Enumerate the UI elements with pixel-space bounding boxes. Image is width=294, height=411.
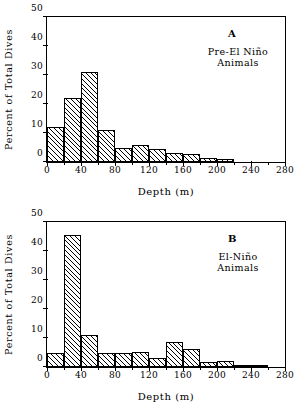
x-axis-tick-label: 0 <box>44 166 50 175</box>
x-axis-tick-label: 200 <box>208 371 226 380</box>
histogram-bar <box>81 335 98 367</box>
histogram-bar <box>98 353 115 368</box>
histogram-bar <box>132 145 149 162</box>
y-axis-tick <box>43 337 48 338</box>
x-axis-tick-label: 40 <box>75 166 87 175</box>
y-axis-tick-label: 30 <box>31 267 43 276</box>
histogram-bar <box>183 154 200 162</box>
y-axis-tick-label: 10 <box>31 120 43 129</box>
x-axis-minor-tick <box>166 162 167 165</box>
x-axis-tick-label: 240 <box>242 371 260 380</box>
y-axis-tick <box>43 308 48 309</box>
y-axis-tick <box>43 279 48 280</box>
x-axis-minor-tick <box>132 367 133 370</box>
x-axis-tick-label: 160 <box>174 166 192 175</box>
y-axis-tick-label: 20 <box>31 296 43 305</box>
histogram-bar <box>115 353 132 368</box>
panel-caption-a-line1: Pre-El Niño <box>190 46 286 57</box>
x-axis-minor-tick <box>64 162 65 165</box>
histogram-bar <box>217 361 234 367</box>
histogram-bar <box>166 153 183 162</box>
histogram-bar <box>47 353 64 368</box>
y-axis-tick-label: 40 <box>31 238 43 247</box>
y-axis-tick-label: 50 <box>31 209 43 218</box>
y-axis-tick <box>43 221 48 222</box>
histogram-bar <box>251 365 268 367</box>
y-axis-tick <box>43 45 48 46</box>
y-axis-tick-label: 0 <box>37 149 43 158</box>
x-axis-tick-label: 40 <box>75 371 87 380</box>
x-axis-minor-tick <box>166 367 167 370</box>
x-axis-tick-label: 280 <box>276 371 294 380</box>
histogram-bar <box>64 235 81 367</box>
x-axis-title: Depth (m) <box>46 391 286 402</box>
panel-caption-a-line2: Animals <box>190 57 286 68</box>
y-axis-title-text: Percent of Total Dives <box>4 234 15 355</box>
histogram-bar <box>166 342 183 367</box>
y-axis-tick-label: 30 <box>31 62 43 71</box>
histogram-bar <box>64 98 81 162</box>
panel-letter-a: A <box>228 28 236 39</box>
y-axis-tick-label: 10 <box>31 325 43 334</box>
x-axis-tick-label: 120 <box>140 166 158 175</box>
plot-area-a: 0102030405004080120160200240280 <box>46 16 286 163</box>
histogram-bar <box>115 148 132 163</box>
histogram-bar <box>183 349 200 367</box>
histogram-bar <box>47 127 64 162</box>
y-axis-title: Percent of Total Dives <box>2 16 16 163</box>
x-axis-minor-tick <box>234 162 235 165</box>
x-axis-minor-tick <box>200 367 201 370</box>
x-axis-minor-tick <box>98 162 99 165</box>
panel-caption-b-line2: Animals <box>190 262 286 273</box>
histogram-bar <box>81 72 98 162</box>
histogram-bar <box>234 365 251 367</box>
x-axis-tick-label: 0 <box>44 371 50 380</box>
chart-panel-a: Percent of Total Dives 01020304050040801… <box>0 0 294 205</box>
y-axis-tick <box>43 250 48 251</box>
x-axis-tick-label: 120 <box>140 371 158 380</box>
y-axis-tick <box>43 103 48 104</box>
panel-letter-b: B <box>228 233 237 244</box>
x-axis-minor-tick <box>268 367 269 370</box>
chart-panel-b: Percent of Total Dives 01020304050040801… <box>0 205 294 410</box>
x-axis-minor-tick <box>234 367 235 370</box>
y-axis-tick-label: 20 <box>31 91 43 100</box>
panel-caption-b-line1: El-Niño <box>190 251 286 262</box>
x-axis-minor-tick <box>98 367 99 370</box>
y-axis-tick <box>43 132 48 133</box>
y-axis-tick <box>43 74 48 75</box>
x-axis-title: Depth (m) <box>46 186 286 197</box>
y-axis-tick-label: 40 <box>31 33 43 42</box>
x-axis-tick-label: 280 <box>276 166 294 175</box>
y-axis-tick-label: 50 <box>31 4 43 13</box>
x-axis-minor-tick <box>268 162 269 165</box>
histogram-bar <box>149 149 166 162</box>
x-axis-tick-label: 240 <box>242 166 260 175</box>
histogram-bar <box>98 130 115 162</box>
x-axis-tick-label: 160 <box>174 371 192 380</box>
histogram-bar <box>132 352 149 367</box>
y-axis-title-text: Percent of Total Dives <box>4 29 15 150</box>
x-axis-tick-label: 80 <box>109 166 121 175</box>
histogram-bar <box>200 158 217 162</box>
histogram-bar <box>217 159 234 162</box>
y-axis-tick-label: 0 <box>37 354 43 363</box>
plot-area-b: 0102030405004080120160200240280 <box>46 221 286 368</box>
histogram-bar <box>149 358 166 367</box>
bars-container-a <box>47 17 285 162</box>
histogram-bar <box>200 362 217 367</box>
bars-container-b <box>47 222 285 367</box>
x-axis-minor-tick <box>64 367 65 370</box>
x-axis-minor-tick <box>200 162 201 165</box>
x-axis-minor-tick <box>132 162 133 165</box>
y-axis-tick <box>43 16 48 17</box>
x-axis-tick-label: 200 <box>208 166 226 175</box>
x-axis-tick-label: 80 <box>109 371 121 380</box>
y-axis-title: Percent of Total Dives <box>2 221 16 368</box>
